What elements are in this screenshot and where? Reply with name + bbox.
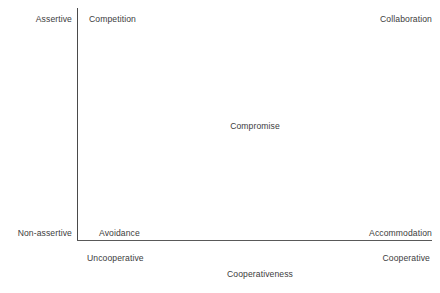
x-axis-low-label: Uncooperative xyxy=(87,253,144,264)
y-axis-line xyxy=(77,8,78,241)
conflict-modes-diagram: Assertive Non-assertive Uncooperative Co… xyxy=(0,0,440,293)
mode-label-collaboration: Collaboration xyxy=(300,14,432,25)
x-axis-line xyxy=(77,240,432,241)
x-axis-title: Cooperativeness xyxy=(190,269,330,280)
y-axis-high-label: Assertive xyxy=(0,14,72,25)
x-axis-high-label: Cooperative xyxy=(280,253,430,264)
mode-label-avoidance: Avoidance xyxy=(99,228,140,239)
y-axis-low-label: Non-assertive xyxy=(0,228,72,239)
mode-label-accommodation: Accommodation xyxy=(300,228,432,239)
mode-label-competition: Competition xyxy=(89,14,136,25)
mode-label-compromise: Compromise xyxy=(195,121,315,132)
